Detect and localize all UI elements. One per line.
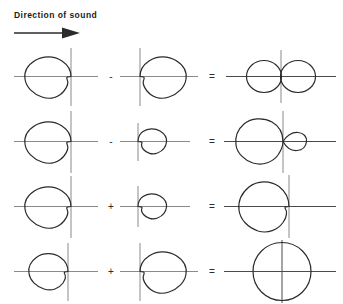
table-row: + = <box>0 239 343 304</box>
row2-operand-b <box>118 109 202 174</box>
operator-equals: = <box>200 239 224 304</box>
row1-operand-a <box>10 44 102 109</box>
row1-result <box>222 44 340 109</box>
operator-equals: = <box>200 44 224 109</box>
row2-result <box>222 109 340 174</box>
page-title: Direction of sound <box>14 10 214 20</box>
row3-operand-a <box>10 174 102 239</box>
row4-result <box>222 239 340 304</box>
polar-pattern-diagram: Direction of sound - <box>0 0 343 304</box>
row2-operand-a <box>10 109 102 174</box>
operator-equals: = <box>200 174 224 239</box>
table-row: + = <box>0 174 343 239</box>
row3-operand-b <box>118 174 202 239</box>
row4-operand-b <box>118 239 202 304</box>
row4-equals: = <box>200 239 224 304</box>
row1-equals: = <box>200 44 224 109</box>
table-row: - = <box>0 109 343 174</box>
row1-operand-b <box>118 44 202 109</box>
operator-equals: = <box>200 109 224 174</box>
row3-result <box>222 174 340 239</box>
diagram-header: Direction of sound <box>14 10 214 20</box>
row2-equals: = <box>200 109 224 174</box>
row3-equals: = <box>200 174 224 239</box>
table-row: - = <box>0 44 343 109</box>
equation-rows: - = <box>0 44 343 304</box>
row4-operand-a <box>10 239 102 304</box>
right-arrow-icon <box>12 26 84 40</box>
